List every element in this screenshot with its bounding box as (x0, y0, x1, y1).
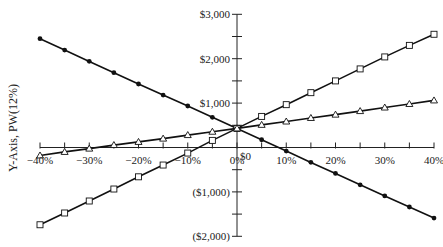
filled-circle-marker (259, 137, 264, 142)
y-tick-label: $2,000 (200, 53, 231, 65)
filled-circle-marker (87, 59, 92, 64)
open-triangle-marker (431, 97, 438, 103)
x-tick-label: −30% (76, 154, 102, 166)
x-tick-label: 20% (325, 154, 345, 166)
x-tick-label: −10% (175, 154, 201, 166)
x-tick-label: 40% (424, 154, 443, 166)
open-square-marker (209, 137, 215, 143)
filled-circle-marker (210, 115, 215, 120)
open-square-marker (382, 54, 388, 60)
filled-circle-marker (62, 48, 67, 53)
filled-circle-marker (333, 171, 338, 176)
y-axis-title: Y-Axis, PW(12%) (6, 84, 20, 172)
open-square-marker (357, 66, 363, 72)
y-tick-label: $1,000 (200, 97, 231, 109)
x-tick-label: 30% (375, 154, 395, 166)
open-square-marker (37, 222, 43, 228)
y-tick-label: ($1,000) (192, 186, 230, 199)
open-square-marker (431, 31, 437, 37)
filled-circle-marker (185, 104, 190, 109)
filled-circle-marker (136, 82, 141, 87)
filled-circle-marker (382, 193, 387, 198)
x-tick-label: −20% (125, 154, 151, 166)
x-tick-label: −40% (27, 154, 53, 166)
open-square-marker (160, 162, 166, 168)
open-square-marker (333, 78, 339, 84)
x-tick-label: 10% (276, 154, 296, 166)
y-tick-label: $3,000 (200, 8, 231, 20)
open-square-marker (86, 198, 92, 204)
y-tick-label: $0 (240, 150, 252, 162)
open-square-marker (62, 210, 68, 216)
filled-circle-marker (38, 36, 43, 41)
filled-circle-marker (111, 70, 116, 75)
y-tick-label: ($2,000) (192, 230, 230, 243)
open-square-marker (406, 42, 412, 48)
filled-circle-marker (407, 205, 412, 210)
open-square-marker (136, 174, 142, 180)
filled-circle-marker (358, 182, 363, 187)
open-square-marker (283, 102, 289, 108)
open-square-marker (259, 113, 265, 119)
filled-circle-marker (308, 160, 313, 165)
filled-circle-marker (432, 216, 437, 221)
filled-circle-marker (161, 93, 166, 98)
open-square-marker (308, 90, 314, 96)
open-square-marker (111, 186, 117, 192)
sensitivity-chart: −40%−30%−20%−10%0%10%20%30%40%$3,000$2,0… (0, 0, 443, 247)
